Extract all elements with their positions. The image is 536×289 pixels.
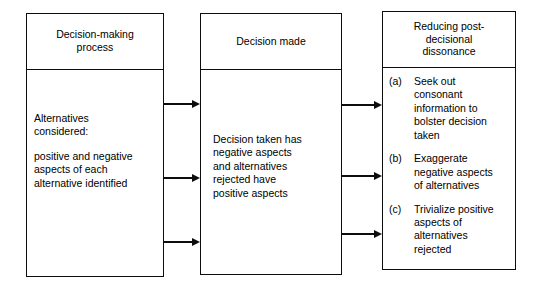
list-item-text: Seek out consonant information to bolste…	[414, 75, 512, 142]
arrow-right-icon	[164, 100, 200, 109]
body-paragraph: positive and negative aspects of each al…	[34, 150, 163, 190]
flow-diagram: Decision-making process Alternatives con…	[0, 0, 536, 289]
box-header-decision-making-process: Decision-making process	[27, 14, 163, 70]
box-body-decision-made: Decision taken has negative aspects and …	[201, 70, 341, 200]
arrow-head	[192, 238, 200, 246]
box-decision-making-process: Decision-making process Alternatives con…	[26, 13, 164, 277]
arrow-right-icon	[164, 174, 200, 183]
box-decision-made: Decision made Decision taken has negativ…	[200, 13, 342, 275]
list-item: (c) Trivialize positive aspects of alter…	[389, 203, 512, 257]
list-item: (b) Exaggerate negative aspects of alter…	[389, 152, 512, 192]
box-header-text: Reducing post- decisional dissonance	[414, 20, 485, 58]
list-item-marker: (a)	[389, 75, 414, 88]
arrow-shaft	[164, 177, 193, 179]
list-item-marker: (c)	[389, 203, 414, 216]
arrow-shaft	[342, 233, 375, 235]
box-header-reducing-post-decisional-dissonance: Reducing post- decisional dissonance	[383, 12, 515, 68]
arrow-shaft	[164, 241, 193, 243]
body-paragraph: Alternatives considered:	[34, 112, 163, 139]
box-reducing-post-decisional-dissonance: Reducing post- decisional dissonance (a)…	[382, 11, 516, 270]
arrow-right-icon	[164, 238, 200, 247]
arrow-shaft	[342, 104, 375, 106]
list-item: (a) Seek out consonant information to bo…	[389, 75, 512, 142]
arrow-head	[374, 101, 382, 109]
arrow-shaft	[164, 103, 193, 105]
list-item-text: Trivialize positive aspects of alternati…	[414, 203, 512, 257]
arrow-shaft	[342, 175, 375, 177]
arrow-right-icon	[342, 101, 382, 110]
list-item-text: Exaggerate negative aspects of alternati…	[414, 152, 512, 192]
arrow-right-icon	[342, 230, 382, 239]
arrow-head	[192, 100, 200, 108]
box-body-reducing-post-decisional-dissonance: (a) Seek out consonant information to bo…	[383, 68, 515, 256]
box-header-text: Decision made	[236, 35, 305, 48]
list-item-marker: (b)	[389, 152, 414, 165]
box-header-text: Decision-making process	[56, 28, 134, 54]
box-body-decision-making-process: Alternatives considered: positive and ne…	[27, 70, 163, 190]
box-header-decision-made: Decision made	[201, 14, 341, 70]
arrow-head	[192, 174, 200, 182]
body-paragraph: Decision taken has negative aspects and …	[213, 133, 341, 200]
arrow-right-icon	[342, 172, 382, 181]
arrow-head	[374, 230, 382, 238]
arrow-head	[374, 172, 382, 180]
